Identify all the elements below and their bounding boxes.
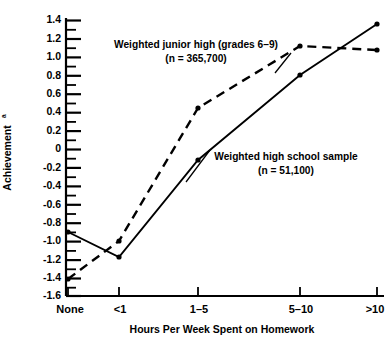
y-tick-label: -1.6 bbox=[43, 289, 61, 301]
x-tick-label-none: None bbox=[56, 303, 84, 315]
series-line-junior-high bbox=[68, 46, 377, 279]
annotation-high-school-line1: Weighted high school sample bbox=[214, 151, 358, 162]
y-tick-label: 1.0 bbox=[46, 50, 61, 62]
y-tick-label: -0.2 bbox=[43, 161, 61, 173]
y-tick-label: -0.8 bbox=[43, 216, 61, 228]
x-tick-label-5-10: 5–10 bbox=[289, 303, 313, 315]
annotation-junior-high: Weighted junior high (grades 6–9) (n = 3… bbox=[114, 39, 291, 73]
y-tick-label: -0.4 bbox=[43, 179, 61, 191]
y-tick-label: -1.4 bbox=[43, 271, 61, 283]
y-axis-title: Achievement bbox=[1, 125, 13, 191]
chart-canvas: 1.4 1.2 1.0 0.8 0.6 0.4 0.2 0 -0.2 -0.4 … bbox=[0, 0, 389, 344]
y-tick-label: 0 bbox=[55, 142, 61, 154]
y-tick-label: -1.0 bbox=[43, 234, 61, 246]
y-tick-labels: 1.4 1.2 1.0 0.8 0.6 0.4 0.2 0 -0.2 -0.4 … bbox=[43, 13, 61, 301]
y-tick-label: 1.4 bbox=[46, 13, 61, 25]
y-axis-title-superscript: a bbox=[0, 114, 7, 118]
x-axis-title: Hours Per Week Spent on Homework bbox=[130, 323, 315, 335]
y-tick-label: 0.2 bbox=[46, 124, 61, 136]
y-minor-ticks bbox=[66, 30, 76, 288]
x-tick-label-gt10: >10 bbox=[366, 303, 385, 315]
annotation-high-school-line2: (n = 51,100) bbox=[258, 165, 314, 176]
y-tick-label: -1.2 bbox=[43, 253, 61, 265]
x-tick-label-lt1: <1 bbox=[114, 303, 127, 315]
x-tick-label-1-5: 1–5 bbox=[190, 303, 208, 315]
y-tick-label: 1.2 bbox=[46, 32, 61, 44]
y-tick-label: 0.8 bbox=[46, 69, 61, 81]
annotation-high-school: Weighted high school sample (n = 51,100) bbox=[186, 150, 358, 182]
y-tick-label: 0.6 bbox=[46, 87, 61, 99]
annotation-junior-high-line2: (n = 365,700) bbox=[165, 53, 226, 64]
y-tick-label: -0.6 bbox=[43, 198, 61, 210]
annotation-high-school-leader bbox=[186, 150, 210, 182]
series-markers-junior-high bbox=[65, 43, 379, 281]
y-axis-title-group: Achievement a bbox=[0, 114, 13, 191]
annotation-junior-high-line1: Weighted junior high (grades 6–9) bbox=[114, 39, 278, 50]
x-tick-labels: None <1 1–5 5–10 >10 bbox=[56, 303, 384, 315]
achievement-homework-chart: 1.4 1.2 1.0 0.8 0.6 0.4 0.2 0 -0.2 -0.4 … bbox=[0, 0, 389, 344]
y-tick-label: 0.4 bbox=[46, 105, 61, 117]
x-ticks bbox=[68, 287, 377, 296]
